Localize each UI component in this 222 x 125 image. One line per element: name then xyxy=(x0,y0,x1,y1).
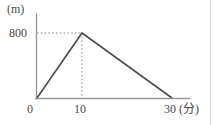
x-tick-label-0: 0 xyxy=(27,103,33,115)
x-tick-label-10: 10 xyxy=(74,103,86,115)
x-tick-label-30: 30 xyxy=(164,103,176,115)
data-series-line xyxy=(37,33,172,98)
y-tick-label-800: 800 xyxy=(9,27,27,39)
chart-figure: (m) (分) 800 0 10 30 xyxy=(0,0,222,125)
x-axis-unit-label: (分) xyxy=(179,103,199,115)
y-axis-unit-label: (m) xyxy=(7,3,24,15)
